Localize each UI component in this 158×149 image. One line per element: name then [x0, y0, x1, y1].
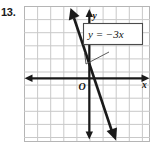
- figure-container: 13.: [0, 0, 158, 149]
- problem-number-label: 13.: [1, 6, 15, 18]
- equation-label: y = −3x: [87, 28, 124, 40]
- coordinate-graph-panel: y = −3x O x y: [24, 6, 150, 142]
- coordinate-graph-svg: y = −3x O x y: [24, 6, 150, 142]
- x-axis: [25, 75, 150, 82]
- x-axis-label: x: [141, 80, 147, 90]
- y-axis-label: y: [92, 11, 98, 21]
- equation-callout: y = −3x: [84, 24, 143, 45]
- origin-label: O: [79, 81, 86, 92]
